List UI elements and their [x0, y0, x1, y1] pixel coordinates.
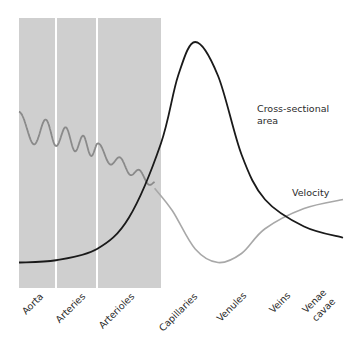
x-label-arterioles: Arterioles	[96, 291, 136, 331]
x-label-capillaries: Capillaries	[157, 291, 200, 334]
x-label-venules: Venules	[214, 290, 248, 324]
x-label-arteries: Arteries	[53, 291, 87, 325]
velocity-label: Velocity	[292, 187, 330, 198]
velocity-line	[155, 188, 343, 262]
shaded-segment-arterioles	[98, 18, 161, 288]
shaded-segment-aorta	[19, 18, 55, 288]
x-label-veins: Veins	[267, 290, 293, 316]
cross-section-label-line-2: area	[257, 115, 278, 126]
cross-section-label-line-1: Cross-sectional	[257, 103, 329, 114]
x-axis-labels: AortaArteriesArteriolesCapillariesVenule…	[20, 287, 338, 334]
x-label-aorta: Aorta	[20, 291, 46, 317]
blood-vessel-chart: Cross-sectional area Velocity AortaArter…	[0, 0, 363, 358]
series-labels: Cross-sectional area Velocity	[257, 103, 330, 198]
